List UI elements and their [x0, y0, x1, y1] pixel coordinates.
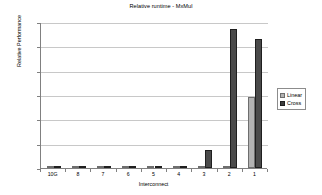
bar-cross-1	[255, 39, 262, 168]
x-axis-tick-label: 7	[90, 171, 115, 177]
bar-linear-7	[97, 166, 104, 168]
legend-swatch-icon	[280, 101, 285, 106]
x-axis-tick-label: 6	[116, 171, 141, 177]
gridline	[41, 23, 268, 24]
bar-cross-6	[129, 166, 136, 168]
x-axis-tick-label: 1	[242, 171, 267, 177]
plot-area	[40, 23, 267, 169]
x-axis-tick-label: 2	[217, 171, 242, 177]
y-axis-title: Relative Performance	[16, 0, 22, 86]
legend-item-cross[interactable]: Cross	[280, 99, 302, 107]
bar-linear-1	[248, 97, 255, 168]
legend-swatch-icon	[280, 93, 285, 98]
bar-cross-7	[104, 166, 111, 168]
bar-cross-10G	[54, 166, 61, 168]
bar-cross-8	[79, 166, 86, 168]
bar-linear-8	[72, 166, 79, 168]
legend-item-label: Cross	[287, 100, 301, 106]
legend-item-linear[interactable]: Linear	[280, 91, 302, 99]
x-axis-tick-mark	[267, 169, 268, 172]
bar-linear-5	[147, 166, 154, 168]
x-axis-tick-label: 4	[166, 171, 191, 177]
chart-legend: LinearCross	[277, 88, 306, 110]
bar-linear-6	[122, 166, 129, 168]
bar-linear-3	[198, 166, 205, 168]
bar-linear-2	[223, 166, 230, 168]
chart-container: Relative runtime - MxMul Relative Perfor…	[0, 0, 322, 195]
x-axis-tick-label: 5	[141, 171, 166, 177]
x-axis-tick-label: 3	[191, 171, 216, 177]
x-axis-tick-label: 10G	[40, 171, 65, 177]
legend-item-label: Linear	[287, 92, 302, 98]
bar-linear-10G	[47, 166, 54, 168]
x-axis-title: Interconnect	[40, 181, 267, 188]
bar-linear-4	[173, 166, 180, 168]
bar-cross-2	[230, 29, 237, 168]
x-axis-tick-label: 8	[65, 171, 90, 177]
chart-title: Relative runtime - MxMul	[0, 3, 322, 10]
bar-cross-5	[155, 166, 162, 168]
bar-cross-3	[205, 150, 212, 168]
bar-cross-4	[180, 166, 187, 168]
